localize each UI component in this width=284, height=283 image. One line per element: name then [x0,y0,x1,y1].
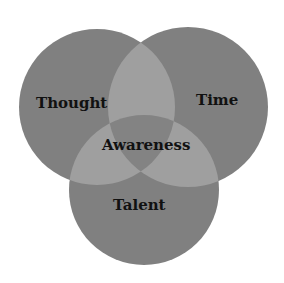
label-awareness: Awareness [101,136,190,154]
label-thought: Thought [36,94,107,112]
venn-diagram: Thought Time Awareness Talent [0,0,284,283]
label-time: Time [196,91,238,109]
label-talent: Talent [113,196,166,214]
